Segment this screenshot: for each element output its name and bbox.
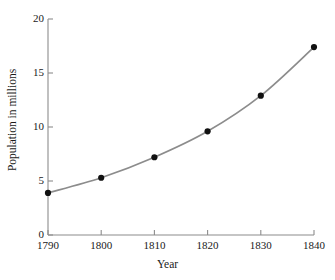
- y-tick-label: 10: [20, 121, 44, 132]
- x-tick-label: 1820: [188, 240, 228, 251]
- y-axis-ticks: [48, 19, 53, 235]
- x-tick-label: 1790: [28, 240, 68, 251]
- population-growth-chart: Population in millions Year 05101520 179…: [0, 0, 335, 280]
- x-tick-label: 1840: [294, 240, 334, 251]
- x-tick-label: 1800: [81, 240, 121, 251]
- y-tick-label: 20: [20, 13, 44, 24]
- x-axis-label: Year: [0, 258, 335, 270]
- y-axis-label-container: Population in millions: [2, 0, 22, 240]
- x-tick-label: 1830: [241, 240, 281, 251]
- x-tick-label: 1810: [134, 240, 174, 251]
- x-axis-ticks: [48, 230, 314, 235]
- plot-area: [0, 0, 335, 280]
- y-tick-label: 15: [20, 67, 44, 78]
- y-axis-label: Population in millions: [6, 69, 18, 171]
- series-data-points: [45, 44, 317, 196]
- series-curve: [48, 47, 314, 193]
- y-tick-label: 5: [20, 175, 44, 186]
